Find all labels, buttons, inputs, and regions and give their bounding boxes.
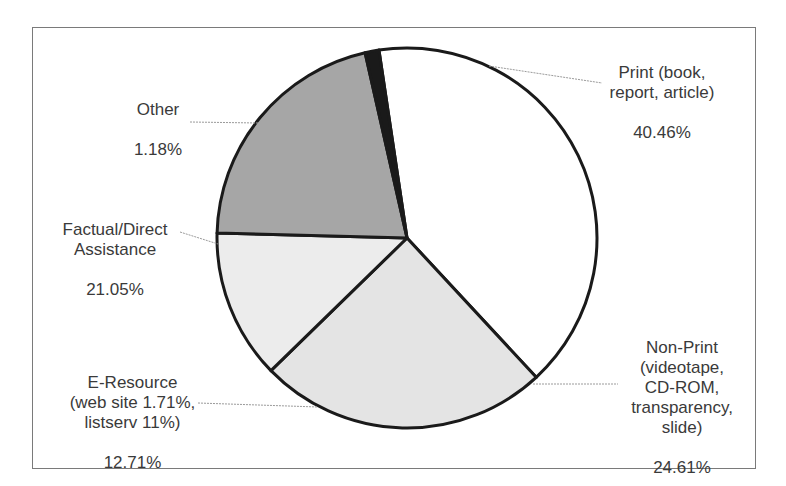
label-eresource: E-Resource (web site 1.71%, listserv 11%… xyxy=(65,353,200,486)
leader-line-other xyxy=(190,122,258,123)
label-factual: Factual/Direct Assistance 21.05% xyxy=(40,200,190,320)
label-factual-name: Factual/Direct Assistance xyxy=(40,220,190,260)
label-other: Other 1.18% xyxy=(128,80,188,180)
label-eresource-pct: 12.71% xyxy=(65,453,200,473)
label-other-pct: 1.18% xyxy=(128,140,188,160)
label-other-name: Other xyxy=(128,100,188,120)
label-print-name: Print (book, report, article) xyxy=(582,63,742,103)
label-print-pct: 40.46% xyxy=(582,123,742,143)
label-nonprint-pct: 24.61% xyxy=(617,458,747,478)
label-print: Print (book, report, article) 40.46% xyxy=(582,43,742,163)
label-nonprint: Non-Print (videotape, CD-ROM, transparen… xyxy=(617,318,747,486)
label-factual-pct: 21.05% xyxy=(40,280,190,300)
label-nonprint-name: Non-Print (videotape, CD-ROM, transparen… xyxy=(617,338,747,438)
leader-line-eresource xyxy=(198,403,318,407)
label-eresource-name: E-Resource (web site 1.71%, listserv 11%… xyxy=(65,373,200,433)
